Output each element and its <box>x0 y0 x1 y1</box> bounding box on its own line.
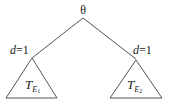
left-depth-label: d=1 <box>10 43 29 57</box>
right-depth-label: d=1 <box>133 43 152 57</box>
root-label-theta: θ <box>80 3 86 17</box>
tree-diagram: θ d=1 d=1 TE1 TE2 <box>0 0 170 107</box>
right-edge <box>83 18 136 59</box>
left-edge <box>32 18 83 58</box>
left-subtree-label: TE1 <box>25 77 40 94</box>
right-subtree-label: TE2 <box>127 77 142 94</box>
